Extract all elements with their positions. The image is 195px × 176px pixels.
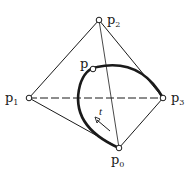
edge-p2-p0 xyxy=(99,20,119,148)
label-p0: p0 xyxy=(111,152,124,169)
edge-p1-p2 xyxy=(29,20,99,98)
point-p1-marker xyxy=(26,95,32,101)
bezier-diagram: p2 p1 p3 p0 p t xyxy=(0,0,195,176)
point-p0-marker xyxy=(116,145,122,151)
point-p2-marker xyxy=(96,17,102,23)
bezier-curve xyxy=(78,65,163,148)
label-p3: p3 xyxy=(171,90,184,107)
t-direction-arrow xyxy=(97,120,110,131)
edge-p2-p3 xyxy=(99,20,163,98)
label-t: t xyxy=(99,105,103,117)
point-p3-marker xyxy=(160,95,166,101)
label-p1: p1 xyxy=(5,90,18,107)
edge-p3-p0 xyxy=(119,98,163,148)
label-p: p xyxy=(80,56,88,71)
label-p2: p2 xyxy=(107,12,120,29)
point-p-marker xyxy=(90,66,96,72)
